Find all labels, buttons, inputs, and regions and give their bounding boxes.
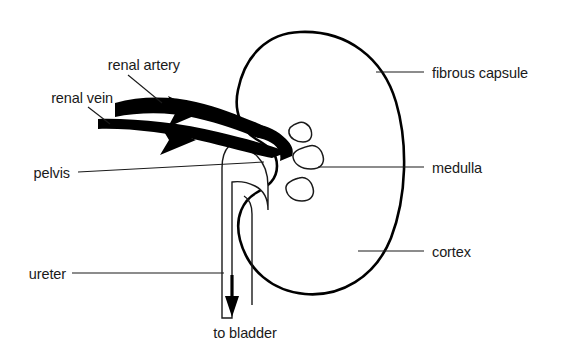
- label-renal-vein: renal vein: [51, 90, 113, 106]
- label-ureter: ureter: [29, 266, 67, 282]
- label-pelvis: pelvis: [34, 165, 70, 181]
- label-cortex: cortex: [432, 244, 472, 260]
- renal-pyramid: [286, 177, 314, 201]
- kidney-diagram: renal artery renal vein pelvis ureter to…: [0, 0, 571, 351]
- label-to-bladder: to bladder: [213, 325, 277, 341]
- kidney-organ: [0, 0, 571, 351]
- label-fibrous-capsule: fibrous capsule: [432, 65, 528, 81]
- label-medulla: medulla: [432, 160, 483, 176]
- renal-pyramid: [289, 122, 312, 142]
- label-renal-artery: renal artery: [108, 57, 181, 73]
